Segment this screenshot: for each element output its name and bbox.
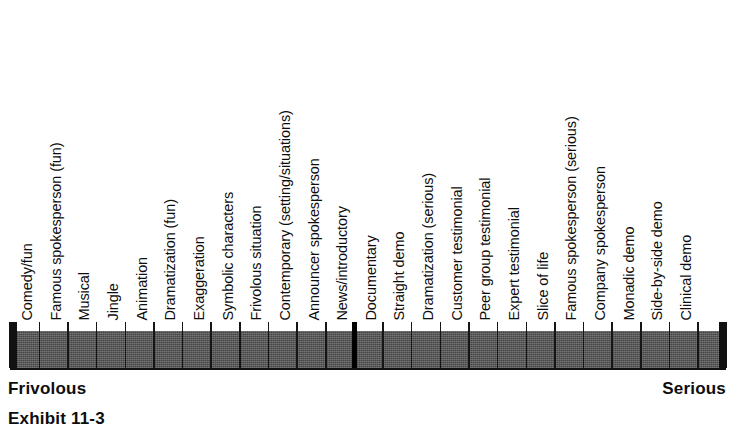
scale-divider (468, 322, 470, 368)
category-label: Monadic demo (621, 226, 636, 320)
scale-divider (669, 322, 671, 368)
category-label: Exaggeration (191, 236, 206, 320)
scale-divider (239, 322, 241, 368)
scale-divider (125, 322, 127, 368)
category-label: Announcer spokesperson (306, 158, 321, 320)
scale-divider (96, 322, 98, 368)
category-label: Famous spokesperson (fun) (48, 142, 63, 320)
scale-divider (611, 322, 613, 368)
frivolous-serious-scale-bar (10, 322, 726, 368)
category-label: Side-by-side demo (650, 201, 665, 320)
scale-divider (526, 322, 528, 368)
scale-divider (39, 322, 41, 368)
category-label: Dramatization (serious) (421, 172, 436, 320)
scale-divider (583, 322, 585, 368)
scale-divider (497, 322, 499, 368)
scale-divider (440, 322, 442, 368)
category-label: Slice of life (535, 251, 550, 320)
category-label: Animation (134, 256, 149, 320)
scale-divider (182, 322, 184, 368)
category-label: Famous spokesperson (serious) (564, 116, 579, 320)
category-label: Expert testimonial (507, 207, 522, 320)
anchor-label-frivolous: Frivolous (8, 379, 86, 399)
scale-divider (325, 322, 327, 368)
scale-divider (382, 322, 384, 368)
category-label: Dramatization (fun) (163, 199, 178, 320)
scale-major-divider (352, 322, 357, 368)
category-label: Straight demo (392, 231, 407, 320)
category-label: Musical (77, 272, 92, 320)
category-label: Comedy/fun (20, 243, 35, 320)
scale-divider (153, 322, 155, 368)
scale-divider (411, 322, 413, 368)
category-label: Jingle (106, 283, 121, 320)
scale-divider (268, 322, 270, 368)
category-label: Peer group testimonial (478, 177, 493, 320)
scale-divider (554, 322, 556, 368)
scale-divider (640, 322, 642, 368)
category-label-group: Comedy/funFamous spokesperson (fun)Music… (0, 0, 755, 320)
scale-divider (697, 322, 699, 368)
scale-left-end-cap (9, 322, 17, 368)
exhibit-caption: Exhibit 11-3 (8, 409, 105, 429)
category-label: Documentary (363, 235, 378, 320)
exhibit-figure: Comedy/funFamous spokesperson (fun)Music… (0, 0, 755, 436)
anchor-label-serious: Serious (646, 379, 726, 399)
category-label: Symbolic characters (220, 191, 235, 320)
category-label: Contemporary (setting/situations) (277, 110, 292, 320)
scale-divider (210, 322, 212, 368)
category-label: News/introductory (335, 206, 350, 320)
category-label: Customer testimonial (449, 186, 464, 320)
scale-divider (296, 322, 298, 368)
category-label: Frivolous situation (249, 205, 264, 320)
category-label: Company spokesperson (592, 166, 607, 320)
scale-right-end-cap (719, 322, 727, 368)
scale-bar-fill (10, 331, 726, 370)
scale-divider (67, 322, 69, 368)
category-label: Clinical demo (678, 234, 693, 320)
